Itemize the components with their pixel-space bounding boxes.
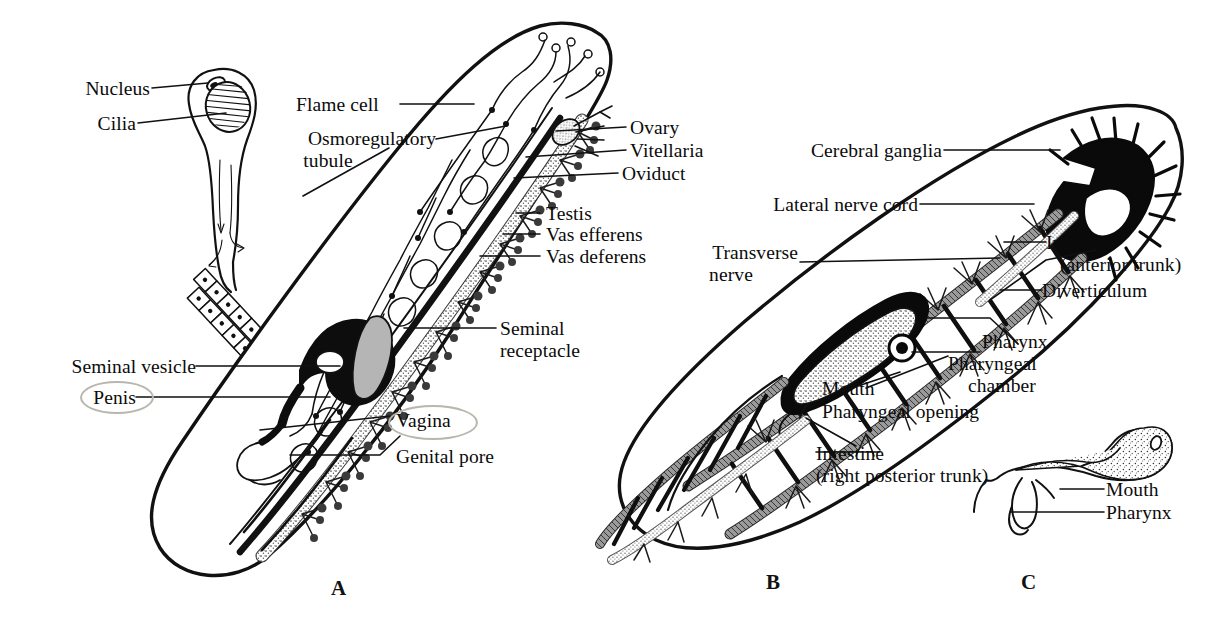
panel-letter-b-text: B [766,570,780,594]
label-seminal-receptacle-line1: Seminal [500,318,580,340]
label-pharyngeal-chamber-line1: Pharyngeal [948,353,1037,375]
label-mouth-c-text: Mouth [1106,479,1159,500]
label-vas-deferens-text: Vas deferens [546,246,646,267]
panel-b-artwork [600,106,1182,562]
label-mouth-b: Mouth [822,378,875,400]
label-ovary: Ovary [630,117,679,139]
label-cerebral-ganglia-text: Cerebral ganglia [811,140,942,161]
label-seminal-receptacle-line2: receptacle [500,340,580,362]
label-oviduct-text: Oviduct [622,163,686,184]
label-vas-efferens-text: Vas efferens [546,224,643,245]
label-nucleus-text: Nucleus [85,78,150,99]
label-osmoregulatory-tubule-line1: Osmoregulatory [244,128,436,150]
label-mouth-b-text: Mouth [822,378,875,399]
panel-letter-a: A [331,576,346,601]
label-transverse-nerve-line2: nerve [670,264,798,286]
label-intestine-right-posterior-trunk-line2: (right posterior trunk) [816,465,988,487]
label-cilia-text: Cilia [98,113,136,134]
panel-letter-b: B [766,570,780,595]
label-intestine-right-posterior-trunk-line1: Intestine [816,443,988,465]
label-pharynx: Pharynx [982,331,1048,353]
label-vas-deferens: Vas deferens [546,246,646,268]
label-diverticulum: Diverticulum [1042,280,1147,302]
label-pharyngeal-opening: Pharyngeal opening [822,401,979,423]
label-transverse-nerve-line1: Transverse [670,242,798,264]
label-pharynx-c-text: Pharynx [1106,502,1172,523]
label-pharyngeal-chamber-line2: chamber [948,375,1037,397]
label-diverticulum-text: Diverticulum [1042,280,1147,301]
label-flame-cell-text: Flame cell [296,94,379,115]
label-oviduct: Oviduct [622,163,686,185]
label-osmoregulatory-tubule: Osmoregulatory tubule [244,128,436,172]
label-intestine-right-posterior-trunk: Intestine (right posterior trunk) [816,443,988,487]
panel-letter-c-text: C [1021,570,1036,594]
label-pharyngeal-chamber: Pharyngeal chamber [948,353,1037,397]
label-testis: Testis [546,203,592,225]
figure-artwork [0,0,1224,626]
label-cilia: Cilia [0,113,136,135]
label-intestine-anterior-trunk-line2: (anterior trunk) [1046,254,1181,276]
label-vagina: Vagina [396,410,451,432]
label-ovary-text: Ovary [630,117,679,138]
label-seminal-vesicle: Seminal vesicle [0,356,196,378]
label-lateral-nerve-cord: Lateral nerve cord [700,194,918,216]
label-lateral-nerve-cord-text: Lateral nerve cord [773,194,918,215]
label-penis-text: Penis [93,387,136,408]
label-genital-pore-text: Genital pore [396,446,494,467]
label-pharynx-c: Pharynx [1106,502,1172,524]
label-cerebral-ganglia: Cerebral ganglia [760,140,942,162]
label-mouth-c: Mouth [1106,479,1159,501]
label-seminal-receptacle: Seminal receptacle [500,318,580,362]
label-vagina-text: Vagina [396,410,451,431]
label-penis: Penis [0,387,136,409]
label-intestine-anterior-trunk: Intestine (anterior trunk) [1046,232,1181,276]
label-osmoregulatory-tubule-line2: tubule [244,150,436,172]
label-testis-text: Testis [546,203,592,224]
label-seminal-vesicle-text: Seminal vesicle [72,356,196,377]
panel-a-artwork [136,23,626,575]
label-vitellaria: Vitellaria [630,140,703,162]
label-genital-pore: Genital pore [396,446,494,468]
label-intestine-anterior-trunk-line1: Intestine [1046,232,1181,254]
figure-plate: Nucleus Cilia Flame cell Osmoregulatory … [0,0,1224,626]
leader-lines-c [1010,489,1104,512]
label-pharyngeal-opening-text: Pharyngeal opening [822,401,979,422]
label-pharynx-text: Pharynx [982,331,1048,352]
label-vas-efferens: Vas efferens [546,224,643,246]
label-flame-cell: Flame cell [296,94,379,116]
panel-letter-c: C [1021,570,1036,595]
label-transverse-nerve: Transverse nerve [670,242,798,286]
label-vitellaria-text: Vitellaria [630,140,703,161]
label-nucleus: Nucleus [0,78,150,100]
panel-letter-a-text: A [331,576,346,600]
